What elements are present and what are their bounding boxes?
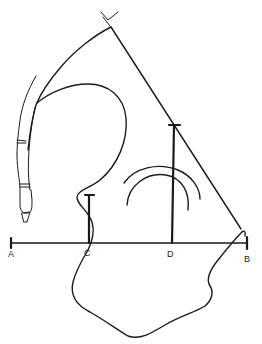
diagram-canvas: A C D B	[0, 0, 262, 344]
left-column-outer	[17, 76, 36, 213]
vertical-d	[172, 125, 174, 243]
label-c: C	[84, 248, 91, 258]
diagonal-line	[111, 27, 241, 229]
top-small-mark	[101, 12, 118, 20]
label-a: A	[8, 249, 14, 259]
arc-inner	[127, 175, 188, 210]
left-column-band-1	[17, 140, 26, 143]
lower-jaw-outline	[72, 231, 245, 337]
outer-profile-curve	[28, 27, 111, 150]
arc-outer	[124, 166, 200, 199]
label-b: B	[244, 254, 250, 264]
inner-arch-curve	[37, 84, 126, 250]
label-d: D	[167, 249, 174, 259]
left-column-band-2	[20, 184, 30, 187]
